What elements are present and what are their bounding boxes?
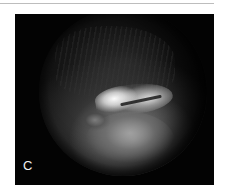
top-divider-line: [0, 3, 214, 4]
panel-label: C: [23, 159, 32, 173]
endoscopic-image-panel: C: [15, 14, 214, 185]
